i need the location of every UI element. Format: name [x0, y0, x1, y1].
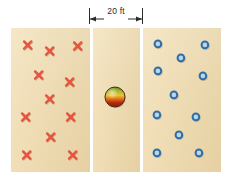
- ring-circle-icon: [191, 112, 202, 123]
- ring-circle-icon: [153, 39, 164, 50]
- ring-circle-icon: [152, 148, 163, 159]
- x-mark-icon: [33, 69, 46, 82]
- x-mark-icon: [44, 45, 57, 58]
- ring-circle-icon: [174, 130, 185, 141]
- ring-circle-icon: [176, 53, 187, 64]
- ring-circle-icon: [153, 66, 164, 77]
- dimension-line-graphic: [88, 6, 144, 26]
- x-mark-icon: [44, 93, 57, 106]
- ring-circle-icon: [194, 148, 205, 159]
- sphere-icon: [105, 87, 126, 108]
- x-mark-icon: [45, 131, 58, 144]
- arrow-right-icon: [136, 17, 142, 22]
- x-mark-icon: [72, 40, 85, 53]
- x-mark-icon: [65, 111, 78, 124]
- ring-circle-icon: [198, 71, 209, 82]
- ring-circle-icon: [152, 110, 163, 121]
- x-mark-icon: [67, 149, 80, 162]
- arrow-left-icon: [90, 17, 96, 22]
- x-mark-icon: [22, 39, 35, 52]
- x-mark-icon: [64, 76, 77, 89]
- ring-circle-icon: [169, 90, 180, 101]
- dimension-callout: 20 ft: [88, 6, 144, 26]
- physics-diagram: 20 ft: [0, 0, 229, 178]
- x-mark-icon: [20, 111, 33, 124]
- x-mark-icon: [21, 149, 34, 162]
- ring-circle-icon: [200, 40, 211, 51]
